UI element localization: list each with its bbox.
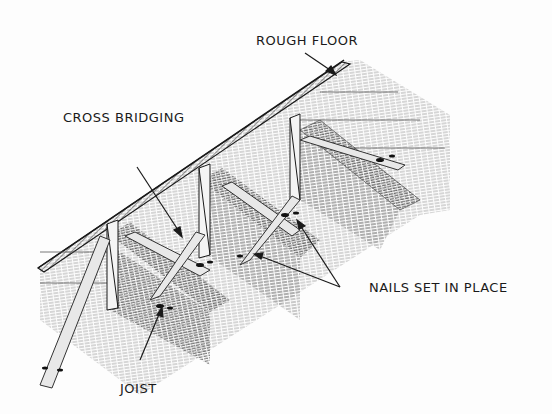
label-joist: JOIST — [120, 381, 157, 396]
joist-bridging-drawing — [0, 0, 552, 414]
label-nails-set-in-place: NAILS SET IN PLACE — [369, 280, 508, 295]
label-cross-bridging: CROSS BRIDGING — [63, 110, 184, 125]
label-rough-floor: ROUGH FLOOR — [256, 33, 358, 48]
diagram-canvas: ROUGH FLOOR CROSS BRIDGING NAILS SET IN … — [0, 0, 552, 414]
